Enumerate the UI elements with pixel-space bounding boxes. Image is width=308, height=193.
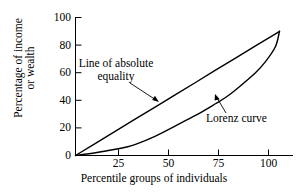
y-axis-title: Percentage of income or wealth [12,0,36,148]
annotation-equality-line1: Line of absolute [79,57,154,69]
y-axis-ticks [76,18,82,156]
x-tick-label-50: 50 [154,157,183,170]
equality-arrow [130,83,159,102]
annotation-lorenz-curve: Lorenz curve [206,112,296,125]
y-axis-title-line2: or wealth [24,46,36,89]
annotation-equality-line2: equality [97,70,134,82]
x-tick-label-75: 75 [204,157,233,170]
x-axis-ticks [119,150,269,156]
annotation-line-of-absolute-equality: Line of absolute equality [62,57,170,83]
annotation-arrows [130,83,226,113]
y-axis-title-line1: Percentage of income [12,18,24,118]
y-axis-title-container: Percentage of income or wealth [12,0,52,148]
y-tick-label-0: 0 [44,149,71,162]
x-tick-label-25: 25 [104,157,133,170]
x-axis-title: Percentile groups of individuals [0,172,308,185]
lorenz-curve-figure: 100 80 60 40 20 0 25 50 75 100 Percentil… [0,0,308,193]
line-of-absolute-equality [76,31,280,155]
annotation-lorenz-line1: Lorenz curve [206,112,267,124]
x-tick-label-100: 100 [254,157,283,170]
